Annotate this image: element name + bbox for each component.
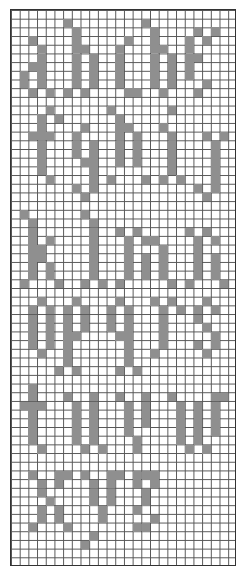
filled-cell (89, 228, 98, 237)
filled-cell (194, 236, 203, 245)
filled-cell (89, 532, 98, 541)
filled-cell (89, 497, 98, 506)
filled-cell (115, 332, 124, 341)
filled-cell (124, 402, 133, 411)
filled-cell (124, 36, 133, 45)
filled-cell (133, 480, 142, 489)
filled-cell (28, 254, 37, 263)
filled-cell (211, 402, 220, 411)
filled-cell (159, 315, 168, 324)
filled-cell (72, 54, 81, 63)
filled-cell (159, 123, 168, 132)
filled-cell (142, 523, 151, 532)
filled-cell (89, 489, 98, 498)
filled-cell (115, 114, 124, 123)
filled-cell (159, 271, 168, 280)
filled-cell (89, 393, 98, 402)
filled-cell (28, 523, 37, 532)
filled-cell (37, 167, 46, 176)
filled-cell (133, 367, 142, 376)
filled-cell (211, 306, 220, 315)
filled-cell (63, 523, 72, 532)
filled-cell (89, 262, 98, 271)
filled-cell (28, 306, 37, 315)
filled-cell (63, 323, 72, 332)
filled-cell (150, 36, 159, 45)
filled-cell (168, 297, 177, 306)
filled-cell (115, 54, 124, 63)
filled-cell (89, 184, 98, 193)
filled-cell (211, 341, 220, 350)
filled-cell (98, 515, 107, 524)
filled-cell (194, 54, 203, 63)
filled-cell (194, 341, 203, 350)
chart-title: Blackletter lowercase alphabet charted o… (0, 0, 23, 1)
filled-cell (37, 45, 46, 54)
filled-cell (89, 149, 98, 158)
filled-cell (20, 71, 29, 80)
filled-cell (185, 228, 194, 237)
filled-cell (63, 341, 72, 350)
filled-cell (107, 306, 116, 315)
filled-cell (72, 149, 81, 158)
filled-cell (63, 19, 72, 28)
filled-cell (202, 80, 211, 89)
filled-cell (72, 428, 81, 437)
filled-cell (168, 132, 177, 141)
filled-cell (168, 62, 177, 71)
filled-cell (176, 306, 185, 315)
filled-cell (168, 393, 177, 402)
filled-cell (194, 27, 203, 36)
filled-cell (28, 341, 37, 350)
filled-cell (142, 271, 151, 280)
filled-cell (194, 184, 203, 193)
filled-cell (176, 410, 185, 419)
filled-cell (37, 141, 46, 150)
filled-cell (124, 323, 133, 332)
filled-cell (37, 489, 46, 498)
filled-cell (28, 419, 37, 428)
filled-cell (194, 419, 203, 428)
filled-cell (81, 88, 90, 97)
filled-cell (211, 175, 220, 184)
filled-cell (159, 45, 168, 54)
filled-cell (115, 280, 124, 289)
filled-cell (185, 445, 194, 454)
filled-cell (150, 236, 159, 245)
filled-cell (89, 402, 98, 411)
filled-cell (115, 123, 124, 132)
filled-cell (72, 410, 81, 419)
filled-cell (194, 315, 203, 324)
filled-cell (46, 262, 55, 271)
filled-cell (168, 106, 177, 115)
filled-cell (63, 349, 72, 358)
filled-cell (20, 402, 29, 411)
filled-cell (185, 45, 194, 54)
filled-cell (46, 332, 55, 341)
filled-cell (202, 349, 211, 358)
filled-cell (72, 367, 81, 376)
filled-cell (194, 254, 203, 263)
filled-cell (124, 88, 133, 97)
filled-cell (150, 27, 159, 36)
filled-cell (107, 323, 116, 332)
filled-cell (81, 45, 90, 54)
filled-cell (37, 62, 46, 71)
filled-cell (20, 280, 29, 289)
filled-cell (211, 262, 220, 271)
filled-cell (81, 193, 90, 202)
filled-cell (28, 323, 37, 332)
filled-cell (202, 323, 211, 332)
filled-cell (46, 497, 55, 506)
filled-cell (89, 436, 98, 445)
filled-cell (220, 280, 229, 289)
filled-cell (37, 506, 46, 515)
filled-cell (115, 393, 124, 402)
filled-cell (37, 54, 46, 63)
filled-cell (115, 62, 124, 71)
filled-cell (89, 480, 98, 489)
filled-cell (55, 515, 64, 524)
filled-cell (211, 428, 220, 437)
filled-cell (159, 332, 168, 341)
filled-cell (46, 271, 55, 280)
